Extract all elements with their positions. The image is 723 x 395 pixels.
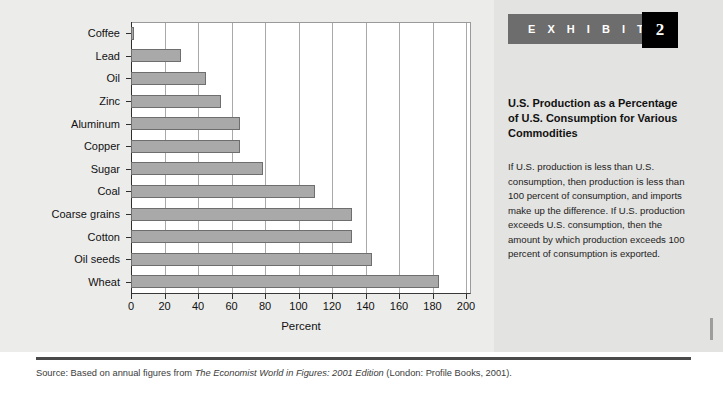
x-tick-200: [466, 294, 467, 299]
x-tick-120: [332, 294, 333, 299]
bar-row: [131, 248, 471, 271]
bar-oil-seeds: [131, 253, 372, 266]
bar-coal: [131, 185, 315, 198]
source-suffix: (London: Profile Books, 2001).: [384, 368, 512, 378]
source-divider: [36, 357, 691, 360]
bar-row: [131, 203, 471, 226]
x-tick-label: 140: [356, 300, 374, 312]
category-label: Coal: [0, 180, 126, 203]
x-tick-60: [232, 294, 233, 299]
x-tick-0: [131, 294, 132, 299]
bar-coffee: [131, 27, 134, 40]
x-tick-80: [265, 294, 266, 299]
category-label: Coffee: [0, 22, 126, 45]
source-title: The Economist World in Figures: 2001 Edi…: [195, 368, 384, 378]
category-label: Sugar: [0, 158, 126, 181]
category-label: Wheat: [0, 271, 126, 294]
x-tick-label: 80: [259, 300, 271, 312]
exhibit-banner-label: E X H I B I T: [528, 23, 648, 35]
exhibit-body-text: If U.S. production is less than U.S. con…: [508, 160, 690, 262]
bar-row: [131, 22, 471, 45]
bar-row: [131, 112, 471, 135]
bar-wheat: [131, 275, 439, 288]
bar-row: [131, 135, 471, 158]
source-note: Source: Based on annual figures from The…: [36, 368, 706, 378]
x-tick-20: [165, 294, 166, 299]
bar-lead: [131, 49, 181, 62]
category-label: Oil seeds: [0, 248, 126, 271]
x-tick-160: [399, 294, 400, 299]
bar-series: [131, 22, 471, 294]
x-tick-label: 200: [457, 300, 475, 312]
x-tick-180: [433, 294, 434, 299]
x-tick-label: 160: [390, 300, 408, 312]
x-tick-label: 60: [225, 300, 237, 312]
x-tick-label: 0: [128, 300, 134, 312]
bar-copper: [131, 140, 240, 153]
bar-row: [131, 90, 471, 113]
bar-cotton: [131, 230, 352, 243]
x-axis-title: Percent: [131, 320, 471, 332]
x-tick-label: 20: [158, 300, 170, 312]
exhibit-number: 2: [642, 12, 678, 48]
x-tick-100: [299, 294, 300, 299]
x-tick-label: 180: [423, 300, 441, 312]
x-tick-label: 100: [289, 300, 307, 312]
category-label: Zinc: [0, 90, 126, 113]
bar-coarse-grains: [131, 208, 352, 221]
bar-row: [131, 225, 471, 248]
exhibit-title: U.S. Production as a Percentage of U.S. …: [508, 96, 688, 142]
x-axis: 020406080100120140160180200: [131, 294, 471, 320]
bar-oil: [131, 72, 206, 85]
category-label: Coarse grains: [0, 203, 126, 226]
bar-aluminum: [131, 117, 240, 130]
x-tick-label: 120: [323, 300, 341, 312]
exhibit-panel: E X H I B I T 2 U.S. Production as a Per…: [494, 0, 723, 352]
category-label: Copper: [0, 135, 126, 158]
bar-row: [131, 158, 471, 181]
category-label: Cotton: [0, 225, 126, 248]
category-label: Oil: [0, 67, 126, 90]
category-label: Lead: [0, 45, 126, 68]
bar-row: [131, 180, 471, 203]
x-tick-label: 40: [192, 300, 204, 312]
exhibit-number-box: 2: [642, 12, 678, 48]
category-axis-labels: CoffeeLeadOilZincAluminumCopperSugarCoal…: [0, 22, 126, 294]
category-label: Aluminum: [0, 112, 126, 135]
x-tick-140: [366, 294, 367, 299]
bar-row: [131, 67, 471, 90]
exhibit-edge-mark: [710, 318, 713, 340]
bar-zinc: [131, 95, 221, 108]
chart-figure: CoffeeLeadOilZincAluminumCopperSugarCoal…: [0, 0, 494, 352]
bar-row: [131, 271, 471, 294]
x-tick-40: [198, 294, 199, 299]
source-prefix: Source: Based on annual figures from: [36, 368, 195, 378]
bar-sugar: [131, 162, 263, 175]
bar-row: [131, 45, 471, 68]
